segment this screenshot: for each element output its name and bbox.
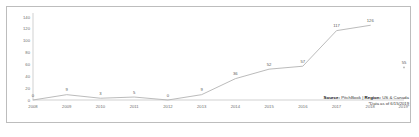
y-axis-tick: 100 xyxy=(23,38,31,43)
source-label: Source: xyxy=(324,95,340,100)
data-label: 3 xyxy=(99,91,102,96)
data-label: 55 xyxy=(402,60,407,65)
data-point-marker xyxy=(403,66,405,68)
data-label: 117 xyxy=(333,23,340,28)
data-label: 57 xyxy=(300,59,305,64)
data-label: 0 xyxy=(167,93,170,98)
data-label: 36 xyxy=(233,71,238,76)
region-value: US & Canada xyxy=(382,95,409,100)
data-label: 9 xyxy=(200,87,203,92)
y-axis-tick: 0 xyxy=(28,98,31,103)
x-axis-tick: 2009 xyxy=(62,104,72,109)
region-label: Region: xyxy=(365,95,381,100)
data-label: 126 xyxy=(367,18,375,23)
x-axis-tick: 2010 xyxy=(96,104,106,109)
data-as-of-note: *Data as of 6/15/2019 xyxy=(179,101,409,107)
y-axis-tick: 80 xyxy=(25,50,30,55)
x-axis-tick: 2012 xyxy=(163,104,173,109)
y-axis-tick: 60 xyxy=(25,62,30,67)
source-value: PitchBook xyxy=(341,95,361,100)
y-axis-tick: 120 xyxy=(23,26,31,31)
data-label: 52 xyxy=(267,62,272,67)
footer-separator: | xyxy=(362,95,363,100)
y-axis-tick: 140 xyxy=(23,15,31,20)
data-label: 0 xyxy=(32,93,35,98)
x-axis-tick: 2011 xyxy=(130,104,140,109)
y-axis-tick: 20 xyxy=(25,86,30,91)
data-label: 9 xyxy=(66,87,69,92)
chart-footer: Source: PitchBook | Region: US & Canada … xyxy=(179,95,409,107)
x-axis-tick: 2008 xyxy=(28,104,38,109)
y-axis-tick: 40 xyxy=(25,74,30,79)
data-label: 5 xyxy=(133,90,136,95)
